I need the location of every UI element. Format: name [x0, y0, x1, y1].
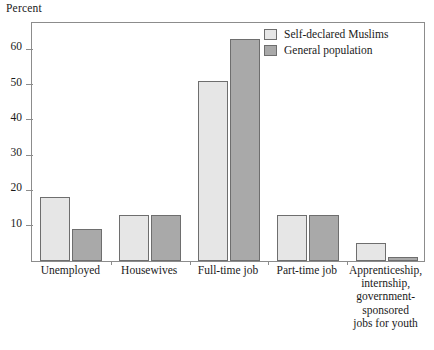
bar: [151, 215, 181, 261]
bar-group: [347, 23, 426, 261]
x-category-label: Housewives: [110, 264, 189, 277]
y-axis-label: Percent: [6, 2, 42, 14]
bar-chart-figure: Percent 102030405060 UnemployedHousewive…: [0, 0, 434, 350]
bar-group: [32, 23, 111, 261]
bar-group: [190, 23, 269, 261]
x-category-label: Apprenticeship, internship, government- …: [346, 264, 425, 330]
bar: [72, 229, 102, 261]
x-category-label: Part-time job: [267, 264, 346, 277]
bar: [388, 257, 418, 261]
bar: [309, 215, 339, 261]
y-tick-label: 30: [11, 146, 23, 158]
legend-swatch-icon: [264, 45, 277, 56]
bar-group: [268, 23, 347, 261]
legend-label: Self-declared Muslims: [284, 28, 388, 40]
bar: [230, 39, 260, 261]
legend-item: General population: [264, 44, 388, 56]
bar: [356, 243, 386, 261]
x-axis-category-labels: UnemployedHousewivesFull-time jobPart-ti…: [31, 264, 425, 350]
x-category-label: Full-time job: [189, 264, 268, 277]
bar: [277, 215, 307, 261]
bar: [40, 197, 70, 261]
plot-area: 102030405060: [31, 22, 425, 262]
bars-layer: [32, 23, 424, 261]
y-tick-label: 50: [11, 76, 23, 88]
legend-label: General population: [284, 44, 372, 56]
bar-group: [111, 23, 190, 261]
y-tick-label: 40: [11, 111, 23, 123]
y-tick-label: 60: [11, 40, 23, 52]
legend-swatch-icon: [264, 29, 277, 40]
bar: [119, 215, 149, 261]
y-tick-label: 10: [11, 217, 23, 229]
bar: [198, 81, 228, 261]
x-category-label: Unemployed: [31, 264, 110, 277]
y-tick-label: 20: [11, 181, 23, 193]
chart-legend: Self-declared MuslimsGeneral population: [264, 28, 388, 56]
legend-item: Self-declared Muslims: [264, 28, 388, 40]
